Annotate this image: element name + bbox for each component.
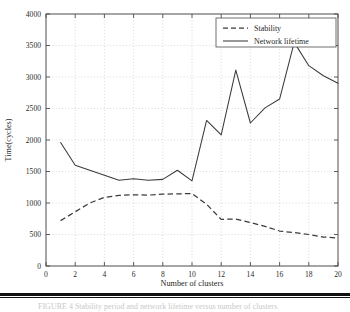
x-tick-label: 18: [305, 270, 313, 279]
x-tick-label: 6: [132, 270, 136, 279]
y-tick-label: 500: [30, 230, 42, 239]
grid-lines: [46, 14, 338, 266]
line-chart: 0500100015002000250030003500400002468101…: [0, 0, 350, 290]
chart-legend: StabilityNetwork lifetime: [216, 18, 336, 47]
footer-rule-thick: [0, 293, 350, 296]
series-line-network-lifetime: [61, 42, 338, 181]
y-tick-label: 3000: [26, 73, 41, 82]
legend-label-network-lifetime: Network lifetime: [254, 37, 309, 46]
figure-container: 0500100015002000250030003500400002468101…: [0, 0, 350, 290]
caption-strip: FIGURE 4 Stability period and network li…: [0, 301, 350, 312]
x-tick-label: 2: [73, 270, 77, 279]
y-tick-label: 2000: [26, 136, 41, 145]
y-tick-label: 4000: [26, 10, 41, 19]
legend-label-stability: Stability: [254, 24, 281, 33]
x-axis-title: Number of clusters: [161, 279, 224, 288]
footer-rule-thin: [0, 297, 350, 298]
x-tick-label: 20: [334, 270, 342, 279]
x-tick-label: 16: [276, 270, 284, 279]
y-tick-label: 0: [37, 262, 41, 271]
axis-ticks: [46, 14, 338, 266]
x-tick-label: 8: [161, 270, 165, 279]
x-tick-label: 10: [188, 270, 196, 279]
x-tick-label: 14: [247, 270, 255, 279]
y-tick-label: 2500: [26, 104, 41, 113]
series-line-stability: [61, 194, 338, 238]
x-tick-label: 4: [103, 270, 107, 279]
y-tick-label: 3500: [26, 41, 41, 50]
y-axis-title: Time(cycles): [4, 118, 13, 161]
y-tick-label: 1000: [26, 199, 41, 208]
plot-frame: [46, 14, 338, 266]
axis-tick-labels: 0500100015002000250030003500400002468101…: [26, 10, 342, 279]
x-tick-label: 12: [217, 270, 225, 279]
x-tick-label: 0: [44, 270, 48, 279]
figure-caption: FIGURE 4 Stability period and network li…: [0, 301, 350, 312]
y-tick-label: 1500: [26, 167, 41, 176]
